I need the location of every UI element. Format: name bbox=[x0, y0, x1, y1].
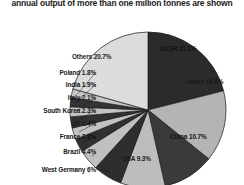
pie-slice-label: Others 20.7% bbox=[72, 53, 111, 60]
pie-slice-label: China 10.7% bbox=[170, 133, 207, 140]
pie-slice-label: UK 2.4% bbox=[0, 120, 96, 127]
pie-slice-label: France 2.8% bbox=[0, 133, 96, 140]
pie-slice-label: South Korea 2.3% bbox=[0, 107, 96, 114]
pie-slice-label: USSR 21.1% bbox=[160, 45, 197, 52]
pie-slice-label: Italy 2.1% bbox=[0, 94, 96, 101]
pie-slice-label: Brazil 4.4% bbox=[0, 148, 96, 155]
pie-slice-label: India 1.9% bbox=[0, 81, 96, 88]
pie-slice-label: West Germany 6% bbox=[0, 166, 96, 173]
pie-slice-label: USA 9.3% bbox=[122, 155, 151, 162]
pie-slice-label: Poland 1.8% bbox=[0, 69, 96, 76]
pie-chart-figure: annual output of more than one million t… bbox=[0, 0, 244, 185]
pie-slice-label: Japan 14.8% bbox=[186, 78, 223, 85]
